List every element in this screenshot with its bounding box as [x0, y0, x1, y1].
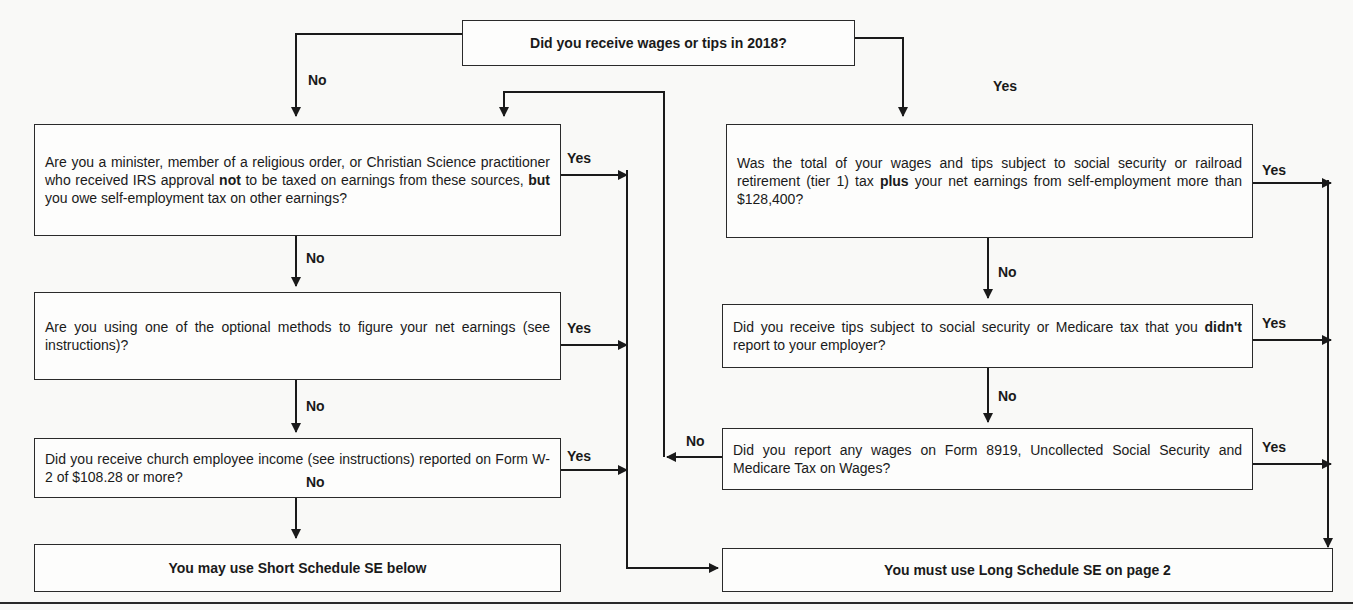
label-no-left-1: No: [306, 250, 325, 266]
right-question-wages-total: Was the total of your wages and tips sub…: [726, 124, 1253, 238]
right-question-form-8919: Did you report any wages on Form 8919, U…: [722, 428, 1253, 490]
right-question-unreported-tips: Did you receive tips subject to social s…: [722, 304, 1253, 368]
start-question: Did you receive wages or tips in 2018?: [462, 20, 855, 66]
result-long-schedule: You must use Long Schedule SE on page 2: [722, 548, 1333, 592]
label-yes-left-3: Yes: [567, 448, 591, 464]
result-short-schedule: You may use Short Schedule SE below: [34, 544, 561, 592]
label-yes-left-1: Yes: [567, 150, 591, 166]
label-yes-right-2: Yes: [1262, 315, 1286, 331]
bottom-divider: [0, 602, 1353, 604]
label-no-right-2: No: [998, 388, 1017, 404]
label-no-right-1: No: [998, 264, 1017, 280]
label-yes-left-2: Yes: [567, 320, 591, 336]
label-no-left-2: No: [306, 398, 325, 414]
label-no-start: No: [308, 72, 327, 88]
left-question-optional-methods: Are you using one of the optional method…: [34, 292, 561, 380]
label-no-right-3: No: [686, 433, 705, 449]
label-yes-right-1: Yes: [1262, 162, 1286, 178]
label-yes-right-3: Yes: [1262, 439, 1286, 455]
label-no-left-3: No: [306, 474, 325, 490]
left-question-church-income: Did you receive church employee income (…: [34, 438, 561, 498]
left-question-minister: Are you a minister, member of a religiou…: [34, 124, 561, 236]
label-yes-start: Yes: [993, 78, 1017, 94]
